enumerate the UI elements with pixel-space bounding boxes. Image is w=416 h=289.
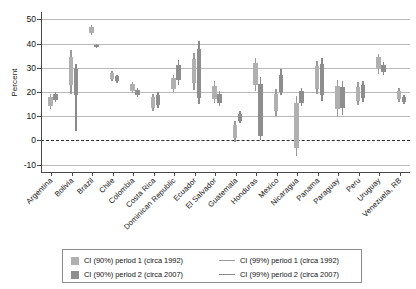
x-axis-tick-labels: ArgentinaBoliviaBrazilChileColombiaCosta… <box>41 172 410 234</box>
ci90-box <box>217 94 221 103</box>
legend-line-period2-icon <box>219 274 235 275</box>
x-tick-label: Brazil <box>75 176 95 196</box>
ci90-box <box>115 76 119 81</box>
plot-inner <box>41 12 410 172</box>
ci90-box <box>89 27 93 33</box>
ci90-box <box>361 85 365 98</box>
ci90-box <box>212 86 216 100</box>
ci90-box <box>197 49 201 97</box>
legend-item-ci90-period1: CI (90%) period 1 (circa 1992) <box>71 254 183 267</box>
legend-swatch-period2-icon <box>71 271 79 279</box>
y-tick-label: 10 <box>10 111 36 121</box>
ci90-box <box>315 66 319 89</box>
ci90-box <box>48 97 52 106</box>
ci90-box <box>69 57 73 86</box>
gridline <box>41 92 410 93</box>
ci90-box <box>253 63 257 85</box>
y-tick-label: -10 <box>10 160 36 170</box>
ci90-box <box>156 95 160 105</box>
chart-legend: CI (90%) period 1 (circa 1992) CI (99%) … <box>62 249 362 283</box>
y-tick-label: 40 <box>10 39 36 49</box>
gridline <box>41 165 410 166</box>
ci90-box <box>74 69 78 95</box>
legend-item-ci99-period1: CI (99%) period 1 (circa 1992) <box>219 254 339 267</box>
plot-area <box>41 12 410 172</box>
ci90-box <box>279 75 283 92</box>
y-axis-line <box>41 12 42 172</box>
legend-label: CI (99%) period 1 (circa 1992) <box>240 256 339 265</box>
gridline <box>41 116 410 117</box>
ci90-box <box>320 64 324 95</box>
legend-item-ci90-period2: CI (90%) period 2 (circa 2007) <box>71 268 183 281</box>
legend-label: CI (99%) period 2 (circa 2007) <box>240 270 339 279</box>
ci90-box <box>397 91 401 100</box>
ci90-box <box>356 87 360 101</box>
legend-row-2: CI (90%) period 2 (circa 2007) CI (99%) … <box>63 268 361 281</box>
ci90-box <box>171 78 175 89</box>
ci90-box <box>130 84 134 91</box>
ci90-box <box>53 94 57 100</box>
ci90-box <box>176 65 180 80</box>
y-tick-label: 0 <box>10 135 36 145</box>
ci90-box <box>94 45 98 47</box>
ci90-box <box>340 87 344 109</box>
ci90-box <box>192 59 196 83</box>
legend-line-period1-icon <box>219 260 235 261</box>
ci90-box <box>381 65 385 72</box>
zero-reference-line <box>41 140 410 141</box>
y-tick-label: 20 <box>10 87 36 97</box>
legend-label: CI (90%) period 2 (circa 2007) <box>84 270 183 279</box>
ci90-box <box>151 97 155 107</box>
x-tick-label: Bolivia <box>52 176 75 199</box>
ci90-box <box>402 97 406 102</box>
ci90-box <box>274 94 278 111</box>
ci90-box <box>135 90 139 96</box>
ci90-box <box>376 57 380 69</box>
ci90-box <box>258 84 262 136</box>
ci90-box <box>335 86 339 110</box>
ci90-box <box>294 103 298 148</box>
chart-figure: Percent 50403020100-10 ArgentinaBoliviaB… <box>0 0 416 289</box>
ci90-box <box>233 125 237 138</box>
gridline <box>41 19 410 20</box>
ci90-box <box>299 91 303 103</box>
ci90-box <box>110 73 114 79</box>
legend-label: CI (90%) period 1 (circa 1992) <box>84 256 183 265</box>
ci90-box <box>238 114 242 121</box>
legend-swatch-period1-icon <box>71 257 79 265</box>
legend-row-1: CI (90%) period 1 (circa 1992) CI (99%) … <box>63 254 361 267</box>
y-tick-label: 50 <box>10 14 36 24</box>
gridline <box>41 68 410 69</box>
y-tick-label: 30 <box>10 63 36 73</box>
legend-item-ci99-period2: CI (99%) period 2 (circa 2007) <box>219 268 339 281</box>
y-axis-tick-labels: 50403020100-10 <box>8 0 36 289</box>
